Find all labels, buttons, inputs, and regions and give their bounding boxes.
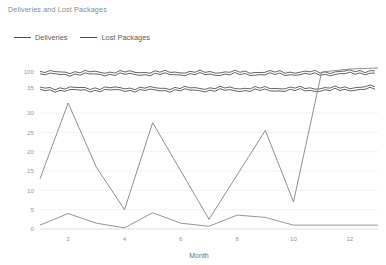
y-tick-label: 10 — [27, 187, 34, 194]
y-tick-label: 30 — [27, 109, 34, 116]
x-tick-label: 10 — [290, 235, 297, 242]
x-tick-label: 4 — [123, 235, 127, 242]
x-tick-label: 6 — [179, 235, 183, 242]
y-tick-label: 15 — [27, 167, 34, 174]
x-axis-title: Month — [189, 252, 209, 259]
plot-area: 05101520253035100 24681012 Month — [0, 0, 386, 265]
y-tick-label: 5 — [31, 206, 35, 213]
series-layer — [40, 68, 378, 229]
y-tick-label: 0 — [31, 225, 35, 232]
y-tick-label: 25 — [27, 129, 34, 136]
y-tick-label: 100 — [24, 68, 35, 75]
y-axis-tick-labels: 05101520253035100 — [24, 68, 35, 232]
chart-card: Deliveries and Lost Packages Deliveries … — [0, 0, 386, 265]
series-line-lost-packages-low — [40, 213, 378, 228]
chart-svg: 05101520253035100 24681012 Month — [0, 0, 386, 265]
x-tick-label: 8 — [235, 235, 239, 242]
y-tick-label: 20 — [27, 148, 34, 155]
x-tick-label: 12 — [346, 235, 353, 242]
series-line-deliveries-upper — [40, 72, 375, 76]
x-axis-tick-labels: 24681012 — [66, 235, 353, 242]
gridlines — [40, 72, 378, 229]
x-tick-label: 2 — [66, 235, 70, 242]
series-line-deliveries-lower — [40, 85, 375, 90]
y-tick-label: 35 — [27, 84, 34, 91]
